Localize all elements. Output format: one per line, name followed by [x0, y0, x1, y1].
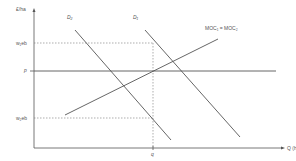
x-axis-arrow-icon	[281, 147, 285, 150]
w1-label: w₁eb	[16, 41, 27, 46]
moc-label: MOC₁ = MOC₂	[205, 26, 238, 31]
y-axis-arrow-icon	[33, 8, 36, 12]
demand-curve-d2	[75, 30, 171, 140]
moc-curve	[65, 39, 218, 115]
d2-label: D₂	[67, 15, 73, 20]
w2-label: w₂eb	[16, 116, 27, 121]
q-label: q	[151, 152, 154, 157]
d1-label: D₁	[133, 15, 138, 20]
demand-curve-d1	[145, 30, 240, 137]
p-label: p	[24, 68, 27, 73]
y-axis-label: £/ha	[16, 7, 26, 12]
x-axis-label: Q (ha)	[287, 146, 296, 151]
diagram-canvas	[0, 0, 296, 161]
